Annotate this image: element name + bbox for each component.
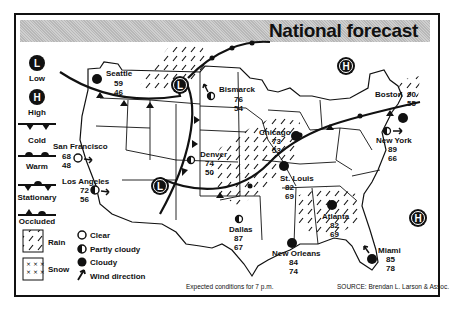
svg-text:55: 55: [407, 99, 416, 108]
high-pressure-icon: H: [409, 209, 427, 227]
low-pressure-icon: L: [171, 76, 189, 94]
svg-text:St. Louis: St. Louis: [280, 174, 314, 183]
svg-text:59: 59: [114, 79, 123, 88]
svg-text:74: 74: [205, 159, 214, 168]
footer-note: Expected conditions for 7 p.m.: [186, 283, 274, 291]
footer-source: SOURCE: Brendan L. Larson & Assoc.: [337, 283, 449, 290]
cloudy-icon: [279, 161, 289, 171]
legend-cold-front: Cold: [18, 124, 56, 145]
city-dallas: Dallas 87 67: [229, 216, 253, 253]
svg-text:76: 76: [234, 95, 243, 104]
legend-cloudy: Cloudy: [78, 258, 118, 268]
svg-text:Clear: Clear: [90, 231, 110, 240]
cloudy-icon: [327, 200, 337, 210]
svg-text:84: 84: [289, 258, 298, 267]
svg-text:53: 53: [272, 146, 281, 155]
legend-rain: Rain: [23, 230, 65, 252]
svg-text:68: 68: [62, 152, 71, 161]
svg-text:Bismarck: Bismarck: [219, 85, 256, 94]
wind-direction-icon: [203, 84, 208, 92]
svg-text:73: 73: [272, 137, 281, 146]
svg-text:Cloudy: Cloudy: [90, 258, 118, 267]
svg-text:H: H: [33, 92, 40, 103]
svg-text:48: 48: [62, 161, 71, 170]
svg-text:Seattle: Seattle: [106, 69, 133, 78]
clear-icon: [74, 154, 82, 162]
svg-text:82: 82: [330, 221, 339, 230]
cloudy-icon: [92, 74, 102, 84]
svg-text:L: L: [177, 80, 183, 91]
svg-text:Snow: Snow: [48, 265, 70, 274]
svg-text:L: L: [34, 58, 40, 69]
legend-partly-cloudy: Partly cloudy: [78, 245, 141, 254]
svg-text:× × ×: × × ×: [26, 268, 45, 275]
svg-text:90: 90: [407, 90, 416, 99]
legend-stationary-front: Stationary: [17, 181, 57, 202]
svg-text:46: 46: [114, 88, 123, 97]
svg-text:54: 54: [234, 104, 243, 113]
svg-text:H: H: [414, 213, 421, 224]
legend-wind-direction: Wind direction: [78, 270, 146, 281]
svg-text:67: 67: [234, 243, 243, 252]
high-pressure-icon: H: [337, 57, 355, 75]
svg-text:56: 56: [80, 195, 89, 204]
svg-text:Occluded: Occluded: [19, 217, 56, 226]
svg-text:82: 82: [285, 183, 294, 192]
wind-direction-icon: [393, 128, 402, 134]
svg-text:69: 69: [285, 192, 294, 201]
svg-text:50: 50: [205, 168, 214, 177]
city-new-york: New York 89 66: [376, 128, 412, 164]
svg-text:Los Angeles: Los Angeles: [62, 177, 110, 186]
svg-text:Stationary: Stationary: [17, 193, 57, 202]
low-pressure-icon: L: [151, 177, 169, 195]
svg-text:66: 66: [388, 154, 397, 163]
svg-text:Wind direction: Wind direction: [90, 272, 146, 281]
svg-text:L: L: [157, 181, 163, 192]
svg-text:Miami: Miami: [378, 246, 401, 255]
svg-text:Atlanta: Atlanta: [322, 212, 350, 221]
svg-text:Cold: Cold: [28, 136, 46, 145]
city-bismarck: Bismarck 76 54: [208, 85, 256, 113]
svg-text:72: 72: [80, 186, 89, 195]
svg-text:High: High: [28, 108, 46, 117]
svg-text:Low: Low: [29, 74, 46, 83]
svg-text:87: 87: [234, 234, 243, 243]
svg-text:× × ×: × × ×: [26, 260, 45, 267]
wind-direction-icon: [101, 189, 109, 195]
svg-text:New Orleans: New Orleans: [272, 249, 321, 258]
svg-text:Dallas: Dallas: [229, 225, 253, 234]
svg-text:Chicago: Chicago: [259, 128, 291, 137]
svg-text:Partly cloudy: Partly cloudy: [90, 245, 141, 254]
svg-text:85: 85: [386, 255, 395, 264]
svg-text:Denver: Denver: [200, 150, 227, 159]
wind-direction-icon: [364, 246, 369, 253]
legend-warm-front: Warm: [18, 152, 56, 171]
cloudy-icon: [398, 113, 408, 123]
city-seattle: Seattle 59 46: [92, 69, 133, 97]
svg-text:74: 74: [289, 267, 298, 276]
rain-area-southeast: [296, 186, 360, 236]
legend-snow: × × × × × × Snow: [23, 258, 70, 280]
legend-clear: Clear: [78, 231, 110, 240]
svg-text:H: H: [342, 61, 349, 72]
legend-occluded-front: Occluded: [18, 209, 56, 226]
cloudy-icon: [287, 238, 297, 248]
svg-text:Warm: Warm: [26, 162, 48, 171]
cloudy-icon: [291, 131, 301, 141]
forecast-map: L L H H L Low H High Cold Warm Stationar…: [0, 0, 459, 311]
svg-text:78: 78: [386, 264, 395, 273]
legend-high: H High: [28, 89, 46, 117]
svg-text:Rain: Rain: [48, 238, 65, 247]
legend-low: L Low: [29, 55, 46, 83]
svg-text:69: 69: [330, 230, 339, 239]
svg-text:Boston: Boston: [375, 90, 403, 99]
svg-text:89: 89: [388, 145, 397, 154]
svg-text:New York: New York: [376, 136, 412, 145]
legend: L Low H High Cold Warm Stationary Occlud…: [17, 55, 145, 281]
cloudy-icon: [367, 254, 377, 264]
city-san-francisco: San Francisco 68 48: [53, 142, 108, 170]
svg-text:San Francisco: San Francisco: [53, 142, 108, 151]
